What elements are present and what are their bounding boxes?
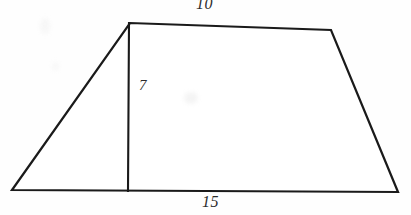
height-segment — [128, 23, 129, 191]
top-side-length-label: 10 — [196, 0, 213, 12]
diagram-canvas: 10 7 15 — [0, 0, 411, 215]
bottom-side-length-label: 15 — [202, 194, 219, 210]
height-length-label: 7 — [139, 78, 147, 93]
trapezoid-figure — [0, 0, 411, 215]
trapezoid-outline — [12, 23, 398, 192]
